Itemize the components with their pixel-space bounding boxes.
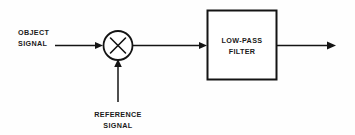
reference-signal-label-line1: REFERENCE <box>94 110 141 119</box>
object-signal-arrowhead <box>95 42 103 49</box>
low-pass-filter-node: LOW-PASS FILTER <box>208 11 277 80</box>
low-pass-filter-box <box>208 11 277 80</box>
multiplier-output-arrowhead <box>199 42 207 49</box>
low-pass-filter-label-line1: LOW-PASS <box>222 36 263 45</box>
object-signal-label-line2: SIGNAL <box>18 39 48 48</box>
block-diagram: OBJECT SIGNAL REFERENCE SIGNAL LOW-PASS … <box>0 0 355 135</box>
connector-multiplier-to-filter <box>133 42 207 49</box>
object-signal-label-line1: OBJECT <box>18 28 50 37</box>
connector-object-to-multiplier <box>55 42 103 49</box>
connector-reference-to-multiplier <box>114 59 122 102</box>
filter-output-arrowhead <box>327 42 336 50</box>
multiplier-node <box>104 31 133 60</box>
connector-filter-to-output <box>277 42 336 50</box>
block-diagram-canvas: OBJECT SIGNAL REFERENCE SIGNAL LOW-PASS … <box>0 0 355 135</box>
low-pass-filter-label-line2: FILTER <box>229 47 256 56</box>
reference-signal-label-line2: SIGNAL <box>103 121 133 130</box>
